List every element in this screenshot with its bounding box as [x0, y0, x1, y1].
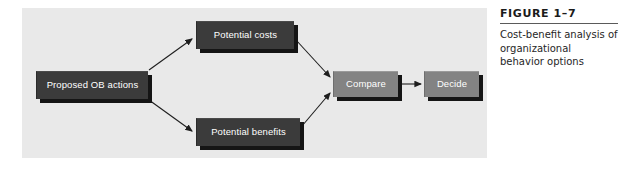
edge-actions-to-costs	[149, 39, 192, 70]
caption-divider	[500, 23, 618, 24]
node-decide[interactable]: Decide	[424, 71, 479, 97]
edge-actions-to-benefits	[149, 100, 192, 131]
node-label-compare: Compare	[346, 79, 386, 90]
node-label-decide: Decide	[437, 79, 467, 90]
edge-costs-to-compare	[296, 40, 330, 77]
node-compare[interactable]: Compare	[333, 71, 398, 97]
figure-screenshot: Proposed OB actions Potential costs Pote…	[0, 0, 625, 171]
figure-number: FIGURE 1–7	[500, 8, 618, 23]
node-potential-costs[interactable]: Potential costs	[196, 21, 294, 49]
edge-benefits-to-compare	[302, 93, 330, 126]
node-label-costs: Potential costs	[214, 30, 277, 41]
figure-description: Cost-benefit analysis of organizational …	[500, 28, 618, 69]
node-label-benefits: Potential benefits	[211, 127, 286, 138]
diagram-panel: Proposed OB actions Potential costs Pote…	[22, 8, 487, 158]
figure-caption: FIGURE 1–7 Cost-benefit analysis of orga…	[500, 8, 618, 69]
node-label-actions: Proposed OB actions	[47, 80, 139, 91]
node-proposed-ob-actions[interactable]: Proposed OB actions	[36, 71, 148, 99]
node-potential-benefits[interactable]: Potential benefits	[196, 118, 300, 146]
